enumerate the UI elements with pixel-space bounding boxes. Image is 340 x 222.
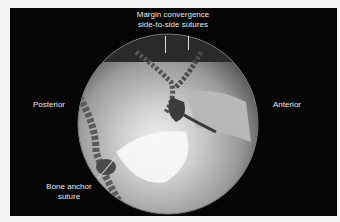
label-posterior: Posterior <box>24 100 74 110</box>
pointer-line <box>165 36 166 53</box>
label-bone-anchor-suture: Bone anchor suture <box>34 182 104 202</box>
pointer-line <box>188 36 189 50</box>
label-line: Margin convergence <box>118 10 228 20</box>
label-line: suture <box>34 192 104 202</box>
label-line: Bone anchor <box>34 182 104 192</box>
label-margin-convergence: Margin convergence side-to-side sutures <box>118 10 228 30</box>
label-anterior: Anterior <box>262 100 312 110</box>
label-line: side-to-side sutures <box>118 20 228 30</box>
